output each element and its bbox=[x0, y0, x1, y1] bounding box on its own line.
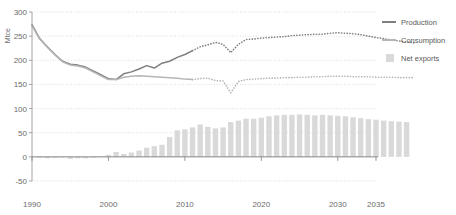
x-tick-label: 1990 bbox=[23, 200, 41, 209]
y-tick-label: 50 bbox=[18, 129, 27, 138]
x-tick-label: 2010 bbox=[176, 200, 194, 209]
y-axis-title: Mtce bbox=[4, 28, 11, 43]
bar-net-exports bbox=[205, 127, 210, 157]
legend-label: Production bbox=[401, 18, 437, 27]
series-production bbox=[32, 25, 414, 80]
chart-canvas: -50050100150200250300Mtce199020002010202… bbox=[0, 0, 456, 215]
bar-net-exports bbox=[175, 130, 180, 157]
net-exports-bars bbox=[29, 114, 409, 158]
bar-net-exports bbox=[335, 116, 340, 157]
y-tick-label: -50 bbox=[15, 177, 27, 186]
bar-net-exports bbox=[266, 116, 271, 157]
bar-net-exports bbox=[327, 115, 332, 157]
bar-net-exports bbox=[144, 148, 149, 157]
y-tick-label: 250 bbox=[14, 32, 28, 41]
bar-net-exports bbox=[129, 153, 134, 157]
x-tick-label: 2020 bbox=[252, 200, 270, 209]
bar-net-exports bbox=[396, 122, 401, 157]
bar-net-exports bbox=[320, 115, 325, 157]
bar-net-exports bbox=[182, 129, 187, 157]
bar-net-exports bbox=[297, 114, 302, 156]
series-line-projection bbox=[193, 33, 415, 53]
bar-net-exports bbox=[274, 115, 279, 157]
legend-label: Consumption bbox=[401, 36, 445, 45]
y-tick-label: 300 bbox=[14, 8, 28, 17]
bar-net-exports bbox=[404, 122, 409, 157]
chart-container: -50050100150200250300Mtce199020002010202… bbox=[0, 0, 456, 215]
x-tick-label: 2035 bbox=[367, 200, 385, 209]
x-tick-label: 2030 bbox=[329, 200, 347, 209]
bar-net-exports bbox=[213, 128, 218, 156]
series-line-historical bbox=[32, 26, 193, 80]
bar-net-exports bbox=[373, 120, 378, 157]
bar-net-exports bbox=[190, 127, 195, 156]
bar-net-exports bbox=[366, 119, 371, 157]
bar-net-exports bbox=[152, 146, 157, 157]
series-consumption bbox=[32, 26, 414, 93]
bar-net-exports bbox=[282, 115, 287, 157]
bar-net-exports bbox=[251, 119, 256, 157]
series-line-historical bbox=[32, 25, 193, 80]
legend-label: Net exports bbox=[401, 54, 440, 63]
legend-marker-square bbox=[386, 54, 394, 62]
bar-net-exports bbox=[228, 122, 233, 157]
bar-net-exports bbox=[389, 121, 394, 157]
bar-net-exports bbox=[305, 115, 310, 157]
x-tick-label: 2000 bbox=[100, 200, 118, 209]
bar-net-exports bbox=[381, 121, 386, 157]
y-tick-label: 100 bbox=[14, 105, 28, 114]
bar-net-exports bbox=[136, 151, 141, 157]
bar-net-exports bbox=[220, 127, 225, 156]
bar-net-exports bbox=[197, 125, 202, 157]
bar-net-exports bbox=[167, 137, 172, 157]
y-tick-label: 150 bbox=[14, 80, 28, 89]
legend: ProductionConsumptionNet exports bbox=[382, 18, 445, 63]
y-tick-label: 200 bbox=[14, 56, 28, 65]
bar-net-exports bbox=[289, 115, 294, 157]
y-axis: -50050100150200250300 bbox=[14, 8, 32, 186]
bar-net-exports bbox=[243, 119, 248, 157]
gridlines bbox=[32, 12, 378, 181]
bar-net-exports bbox=[259, 118, 264, 157]
y-tick-label: 0 bbox=[23, 153, 28, 162]
bar-net-exports bbox=[343, 116, 348, 157]
bar-net-exports bbox=[236, 121, 241, 157]
bar-net-exports bbox=[159, 145, 164, 157]
bar-net-exports bbox=[358, 118, 363, 157]
bar-net-exports bbox=[113, 152, 118, 157]
bar-net-exports bbox=[312, 115, 317, 157]
x-axis: 199020002010202020302035 bbox=[23, 157, 385, 209]
bar-net-exports bbox=[350, 117, 355, 157]
